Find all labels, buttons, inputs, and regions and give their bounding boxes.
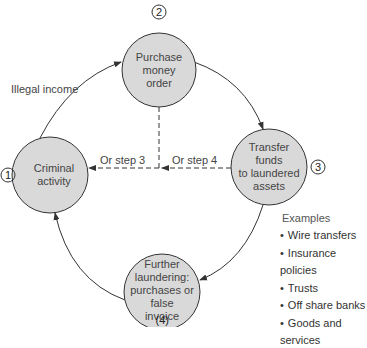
- edge-2-to-3: [194, 62, 263, 129]
- example-item: Off share banks: [280, 297, 367, 315]
- example-item: Insurance policies: [280, 245, 367, 280]
- examples-list: Examples Wire transfers Insurance polici…: [280, 212, 367, 348]
- node-1-label: Criminal activity: [34, 162, 74, 188]
- edge-label-or-step-3: Or step 3: [100, 154, 145, 166]
- edge-3-to-4: [200, 205, 263, 280]
- edge-label-illegal-income: Illegal income: [11, 83, 78, 95]
- examples-title: Examples: [282, 212, 367, 224]
- step-number-2: 2: [152, 5, 167, 20]
- node-3-label: Transfer funds to laundered assets: [238, 141, 299, 193]
- example-item: Trusts: [280, 280, 367, 298]
- node-2-label: Purchase money order: [136, 51, 182, 90]
- edge-label-or-step-4: Or step 4: [172, 154, 217, 166]
- edge-4-to-1: [55, 213, 125, 300]
- edge-1-to-2: [40, 62, 121, 138]
- step-number-1: 1: [1, 168, 16, 183]
- example-item: Wire transfers: [280, 227, 367, 245]
- example-item: Goods and services: [280, 315, 367, 348]
- step-number-4: (4): [156, 314, 169, 327]
- step-number-3: 3: [311, 160, 326, 175]
